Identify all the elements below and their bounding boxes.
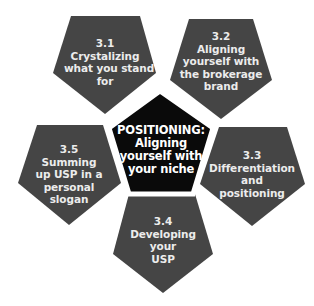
node-text-line: for <box>64 75 146 88</box>
node-label-3-2: 3.2 Aligning yourself with the brokerage… <box>176 30 266 93</box>
node-label-3-3: 3.3 Differentiation and positioning <box>203 149 301 199</box>
node-text-line: and <box>203 174 301 187</box>
node-number: 3.2 <box>176 30 266 43</box>
center-label: POSITIONING: Aligning yourself with your… <box>112 124 210 176</box>
node-label-3-4: 3.4 Developing your USP <box>122 215 204 265</box>
node-text-line: your <box>122 240 204 253</box>
node-text-line: slogan <box>27 193 111 206</box>
node-number: 3.4 <box>122 215 204 228</box>
node-text-line: yourself with <box>176 55 266 68</box>
node-text-line: up USP in a <box>27 168 111 181</box>
node-text-line: Aligning <box>176 43 266 56</box>
node-text-line: positioning <box>203 187 301 200</box>
node-number: 3.1 <box>64 37 146 50</box>
node-text-line: Developing <box>122 228 204 241</box>
node-text-line: Differentiation <box>203 162 301 175</box>
center-text-line: your niche <box>112 163 210 176</box>
node-text-line: personal <box>27 181 111 194</box>
node-text-line: what you stand <box>64 62 146 75</box>
node-text-line: Crystalizing <box>64 50 146 63</box>
node-text-line: brand <box>176 80 266 93</box>
node-number: 3.5 <box>27 143 111 156</box>
node-number: 3.3 <box>203 149 301 162</box>
node-text-line: Summing <box>27 156 111 169</box>
node-label-3-1: 3.1 Crystalizing what you stand for <box>64 37 146 87</box>
node-text-line: USP <box>122 253 204 266</box>
node-text-line: the brokerage <box>176 68 266 81</box>
node-label-3-5: 3.5 Summing up USP in a personal slogan <box>27 143 111 206</box>
